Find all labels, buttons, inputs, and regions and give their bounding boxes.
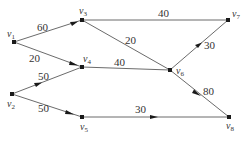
node-v4	[80, 65, 84, 69]
arrow-v2-v4-icon	[34, 83, 42, 88]
weight-v2-v4: 50	[38, 70, 50, 82]
label-v2: v2	[7, 98, 15, 111]
weight-v6-v7: 30	[204, 39, 216, 51]
label-v1: v1	[7, 28, 15, 41]
node-v5	[80, 115, 84, 119]
arrow-v1-v3-icon	[70, 22, 78, 27]
weight-v3-v6: 20	[125, 34, 137, 46]
node-v6	[168, 68, 172, 72]
label-v8: v8	[226, 120, 234, 133]
edge-v4-v6	[82, 67, 170, 70]
label-v7: v7	[232, 8, 240, 21]
label-v5: v5	[80, 121, 88, 134]
weight-v5-v8: 30	[135, 103, 147, 115]
node-v8	[227, 115, 231, 119]
weight-v3-v7: 40	[158, 7, 170, 19]
weight-v1-v3: 60	[37, 21, 49, 33]
weight-v4-v6: 40	[114, 56, 126, 68]
edge-v6-v8	[170, 70, 229, 117]
node-v2	[10, 92, 14, 96]
graph-diagram: v1 v2 v3 v4 v5 v6 v7 v8 60 20 50 50 40 2…	[0, 0, 243, 146]
arrow-v2-v5-icon	[65, 110, 74, 115]
arrow-v1-v4-icon	[69, 61, 78, 66]
arrow-v5-v8-icon	[150, 115, 158, 119]
weight-v6-v8: 80	[203, 85, 215, 97]
weight-v1-v4: 20	[29, 52, 41, 64]
weight-labels: 60 20 50 50 40 20 40 30 80 30	[29, 7, 216, 115]
label-v3: v3	[79, 5, 87, 18]
weight-v2-v5: 50	[38, 102, 50, 114]
node-v7	[226, 18, 230, 22]
node-v3	[80, 18, 84, 22]
label-v4: v4	[83, 53, 91, 66]
